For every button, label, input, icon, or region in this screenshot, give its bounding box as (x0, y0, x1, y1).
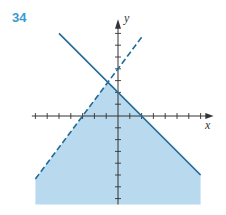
y-arrow-icon (115, 19, 121, 28)
inequality-graph: x y (0, 0, 226, 215)
y-axis-label: y (123, 11, 130, 25)
x-axis-label: x (204, 118, 211, 132)
